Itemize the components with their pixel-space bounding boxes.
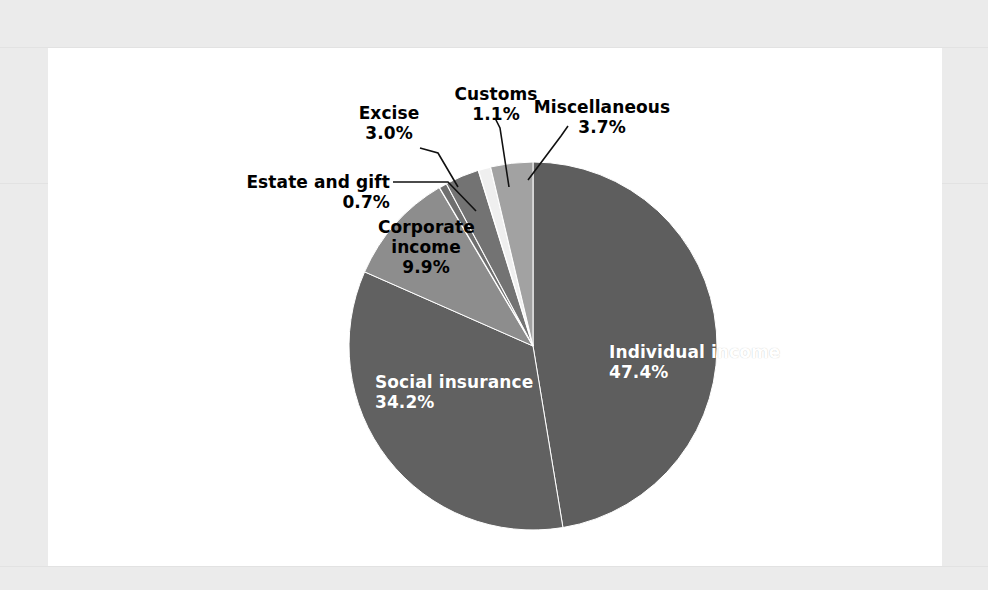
slice-label-estate-and-gift-pct: 0.7%	[220, 192, 390, 212]
slice-label-excise-pct: 3.0%	[354, 123, 424, 143]
slice-label-corporate-income-name-line1: Corporate	[378, 217, 475, 237]
pie-svg	[48, 48, 942, 566]
slice-label-excise-name: Excise	[359, 103, 420, 123]
slice-label-social-insurance-pct: 34.2%	[375, 392, 533, 412]
slice-label-corporate-income-name-line2: income	[378, 237, 474, 257]
figure-panel: Individual income 47.4% Social insurance…	[48, 48, 942, 566]
slice-label-social-insurance: Social insurance 34.2%	[375, 372, 533, 412]
slice-label-excise: Excise 3.0%	[354, 103, 424, 143]
slice-label-estate-and-gift: Estate and gift 0.7%	[220, 172, 390, 212]
slice-label-corporate-income: Corporate income 9.9%	[378, 217, 474, 277]
slice-label-miscellaneous-name: Miscellaneous	[534, 97, 670, 117]
slice-label-miscellaneous: Miscellaneous 3.7%	[530, 97, 674, 137]
slice-label-customs-name: Customs	[454, 84, 537, 104]
slice-label-corporate-income-pct: 9.9%	[378, 257, 474, 277]
page-root: Individual income 47.4% Social insurance…	[0, 0, 988, 590]
slice-label-estate-and-gift-name: Estate and gift	[246, 172, 390, 192]
slice-label-individual-income-pct: 47.4%	[609, 362, 780, 382]
scan-artifact-line	[0, 566, 988, 567]
slice-label-individual-income: Individual income 47.4%	[609, 342, 780, 382]
slice-label-miscellaneous-pct: 3.7%	[530, 117, 674, 137]
slice-label-social-insurance-name: Social insurance	[375, 372, 533, 392]
slice-label-individual-income-name: Individual income	[609, 342, 780, 362]
pie-chart[interactable]: Individual income 47.4% Social insurance…	[48, 48, 942, 566]
